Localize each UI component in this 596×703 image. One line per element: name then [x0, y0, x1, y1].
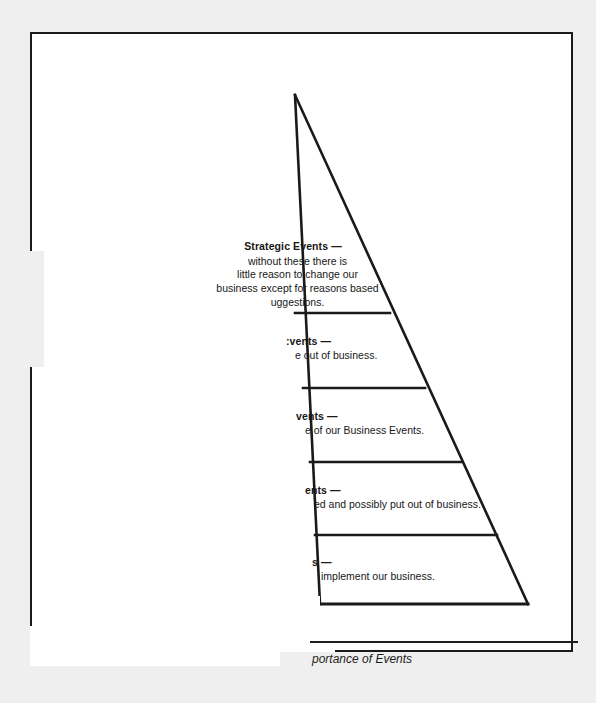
tier-4-heading: ents —: [305, 484, 481, 498]
page-border-top: [30, 32, 573, 34]
pyramid-tier-3-text: vents — е of our Business Events.: [296, 410, 424, 437]
tier-1-line-2: little reason to change our: [195, 268, 400, 282]
caption-rule: [310, 641, 578, 643]
pyramid-tier-5-text: s — implement our business.: [312, 556, 435, 583]
tier-3-heading: vents —: [296, 410, 424, 424]
clip-mask-tier-4: [32, 466, 305, 524]
tier-2-heading: :vents —: [286, 335, 377, 349]
tier-4-line-1: ed and possibly put out of business.: [305, 498, 481, 512]
tier-2-line-1: е out of business.: [286, 349, 377, 363]
tier-5-line-1: implement our business.: [312, 570, 435, 584]
pyramid-tier-2-text: :vents — е out of business.: [286, 335, 377, 362]
tier-5-heading: s —: [312, 556, 435, 570]
clip-mask-tier-3: [32, 392, 296, 450]
tier-1-line-1: without these there is: [195, 255, 400, 269]
clip-mask-caption: [30, 626, 280, 666]
pyramid-tier-1-text: Strategic Events — without these there i…: [186, 240, 400, 309]
tier-1-body: without these there is little reason to …: [186, 255, 400, 310]
figure-caption: portance of Events: [312, 652, 412, 666]
tier-1-line-3: business except for reasons based: [195, 282, 400, 296]
tier-1-line-4: uggestions.: [195, 296, 400, 310]
pyramid-tier-4-text: ents — ed and possibly put out of busine…: [305, 484, 481, 511]
page-border-left-upper: [30, 32, 32, 253]
clip-mask-page-left-edge: [18, 251, 44, 367]
clip-mask-tier-2: [32, 318, 286, 378]
tier-1-heading: Strategic Events —: [186, 240, 400, 254]
page-border-right: [571, 32, 573, 652]
tier-3-line-1: е of our Business Events.: [296, 424, 424, 438]
clip-mask-tier-5: [32, 538, 312, 596]
